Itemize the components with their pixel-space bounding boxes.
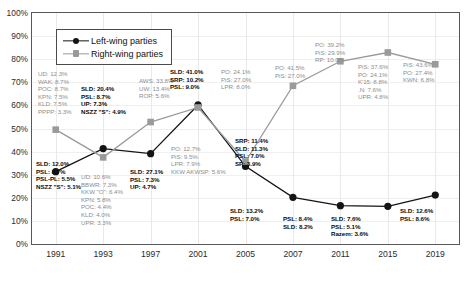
- annotation-line: UPR: 3.3%: [81, 219, 123, 227]
- annotation-line: SLD: 27.1%: [130, 168, 163, 176]
- y-axis-tick: 60%: [11, 100, 28, 110]
- y-axis-tick: 70%: [11, 77, 28, 87]
- annotation-line: PO: 24.1%: [358, 71, 388, 79]
- y-axis-tick: 100%: [7, 8, 28, 18]
- x-axis-tick: 1997: [141, 249, 160, 259]
- annotation-line: SP: 3.9%: [235, 160, 268, 168]
- square-marker-icon: [63, 48, 89, 59]
- annotation-2007-right: PO: 41.5%PiS: 27.0%: [275, 64, 305, 79]
- annotation-line: PO: 41.5%: [275, 64, 305, 72]
- annotation-line: KLD: 7.5%: [38, 100, 72, 108]
- annotation-2011-right: PO: 39.2%PiS: 29.9%RP: 10.0%: [315, 41, 345, 64]
- annotation-line: LPR: 8.0%: [221, 83, 251, 91]
- data-point-marker[interactable]: [385, 49, 392, 56]
- data-point-marker[interactable]: [384, 203, 391, 210]
- legend-item-right-wing[interactable]: Right-wing parties: [63, 47, 163, 60]
- annotation-line: PSL-PL: 5.5%: [36, 175, 81, 183]
- annotation-line: PSL: 9.0%: [170, 83, 204, 91]
- annotation-line: PiS: 9.5%: [171, 153, 226, 161]
- annotation-line: WAK: 8.7%: [38, 78, 72, 86]
- annotation-line: PSL: 8.7%: [36, 168, 81, 176]
- legend-item-left-wing[interactable]: Left-wing parties: [63, 34, 163, 47]
- annotation-line: RP: 10.0%: [315, 56, 345, 64]
- annotation-2005-right: PO: 12.7%PiS: 9.5%LPR: 7.9%KKW AKWSP: 5.…: [171, 145, 226, 175]
- annotation-1993-right: UD: 10.6%BBWR: 7.3%KKW "O": 6.4%KPN: 5.8…: [81, 173, 123, 226]
- x-axis-tick: 1993: [94, 249, 113, 259]
- data-point-marker[interactable]: [290, 82, 297, 89]
- y-axis-tick: 20%: [11, 193, 28, 203]
- annotation-line: POC: 4.4%: [81, 203, 123, 211]
- annotation-line: SLD: 7.6%: [331, 215, 368, 223]
- annotation-line: SLD: 41.0%: [170, 68, 204, 76]
- annotation-line: PSL: 8.6%: [400, 215, 433, 223]
- annotation-line: SLD: 12.6%: [400, 207, 433, 215]
- annotation-2007-left: SLD: 13.2%PSL: 7.0%: [230, 207, 263, 222]
- annotation-1991-right: UD: 12.3%WAK: 8.7%POC: 8.7%KPN: 7.5%KLD:…: [38, 70, 72, 116]
- data-point-marker[interactable]: [147, 119, 154, 126]
- legend-label-left-wing: Left-wing parties: [91, 36, 157, 46]
- y-axis-tick: 10%: [11, 216, 28, 226]
- data-point-marker[interactable]: [195, 104, 202, 111]
- annotation-line: BBWR: 7.3%: [81, 181, 123, 189]
- annotation-1993-left: SLD: 20.4%PSL: 8.7%UP: 7.3%NSZZ "S": 4.9…: [81, 85, 126, 115]
- annotation-line: KLD: 4.0%: [81, 211, 123, 219]
- annotation-line: PSL: 7.0%: [235, 152, 268, 160]
- annotation-line: PO: 39.2%: [315, 41, 345, 49]
- annotation-line: UD: 10.6%: [81, 173, 123, 181]
- x-axis-tick: 2005: [236, 249, 255, 259]
- annotation-line: PiS: 27.0%: [275, 72, 305, 80]
- annotation-2001-left: SLD: 41.0%SRP: 10.2%PSL: 9.0%: [170, 68, 204, 91]
- annotation-line: UPR: 4.8%: [358, 93, 388, 101]
- annotation-line: NSZZ "S": 5.1%: [36, 183, 81, 191]
- annotation-line: PSL: 8.7%: [81, 93, 126, 101]
- annotation-line: POC: 8.7%: [38, 85, 72, 93]
- annotation-line: SLD: 8.2%: [283, 223, 313, 231]
- legend-label-right-wing: Right-wing parties: [91, 49, 163, 59]
- chart-container: 0%10%20%30%40%50%60%70%80%90%100% 199119…: [0, 0, 466, 284]
- annotation-line: NSZZ "S": 4.9%: [81, 108, 126, 116]
- annotation-line: SLD: 11.3%: [235, 145, 268, 153]
- x-axis-tick: 1991: [46, 249, 65, 259]
- y-axis-tick: 80%: [11, 54, 28, 64]
- annotation-line: PO: 27.4%: [403, 69, 435, 77]
- annotation-line: PO: 24.1%: [221, 68, 251, 76]
- annotation-line: PSL: 5.1%: [331, 223, 368, 231]
- y-axis-tick: 30%: [11, 170, 28, 180]
- data-point-marker[interactable]: [289, 194, 296, 201]
- data-point-marker[interactable]: [100, 145, 107, 152]
- annotation-line: K'15: 8.8%: [358, 78, 388, 86]
- data-point-marker[interactable]: [100, 154, 107, 161]
- circle-marker-icon: [63, 35, 89, 46]
- annotation-1991-left: SLD: 12.0%PSL: 8.7%PSL-PL: 5.5%NSZZ "S":…: [36, 160, 81, 190]
- data-point-marker[interactable]: [52, 126, 59, 133]
- annotation-line: PO: 12.7%: [171, 145, 226, 153]
- annotation-2011-left: PSL: 8.4%SLD: 8.2%: [283, 215, 313, 230]
- annotation-2005-left: SRP: 11.4%SLD: 11.3%PSL: 7.0%SP: 3.9%: [235, 137, 268, 167]
- annotation-line: PSL: 7.3%: [130, 176, 163, 184]
- annotation-line: Razem: 3.6%: [331, 230, 368, 238]
- annotation-line: UD: 12.3%: [38, 70, 72, 78]
- data-point-marker[interactable]: [432, 191, 439, 198]
- annotation-line: KPN: 7.5%: [38, 93, 72, 101]
- annotation-line: SLD: 12.0%: [36, 160, 81, 168]
- x-axis-tick: 2019: [426, 249, 445, 259]
- data-point-marker[interactable]: [147, 150, 154, 157]
- annotation-1997-right: AWS: 33.8%UW: 13.4%ROP: 5.6%: [139, 77, 173, 100]
- annotation-line: LPR: 7.9%: [171, 160, 226, 168]
- x-axis-tick: 2001: [188, 249, 207, 259]
- annotation-line: UP: 4.7%: [130, 183, 163, 191]
- y-axis-tick: 50%: [11, 124, 28, 134]
- annotation-line: KPN: 5.8%: [81, 196, 123, 204]
- annotation-2019-left: SLD: 12.6%PSL: 8.6%: [400, 207, 433, 222]
- annotation-line: AWS: 33.8%: [139, 77, 173, 85]
- data-point-marker[interactable]: [337, 202, 344, 209]
- annotation-line: PiS: 27.0%: [221, 76, 251, 84]
- annotation-line: KWN: 6.8%: [403, 76, 435, 84]
- x-axis-tick: 2011: [331, 249, 349, 259]
- annotation-line: KKW AKWSP: 5.6%: [171, 168, 226, 176]
- y-axis-tick: 40%: [11, 147, 28, 157]
- annotation-line: PiS: 43.6%: [403, 61, 435, 69]
- annotation-line: SRP: 10.2%: [170, 76, 204, 84]
- y-axis-tick: 90%: [11, 31, 28, 41]
- annotation-line: PSL: 8.4%: [283, 215, 313, 223]
